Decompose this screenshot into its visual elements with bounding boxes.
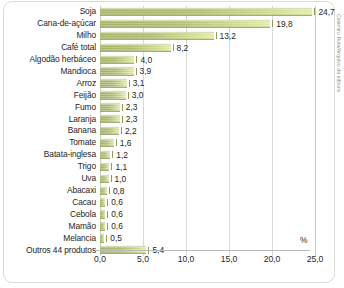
bar [100, 234, 104, 242]
category-label: Trigo [5, 162, 100, 171]
bar-row: Fumo2,3 [5, 101, 315, 113]
category-label: Abacaxi [5, 186, 100, 195]
bar-row: Banana2,2 [5, 125, 315, 137]
bar-zone: 1,2 [100, 149, 315, 161]
category-label: Algodão herbáceo [5, 55, 100, 64]
category-label: Fumo [5, 103, 100, 112]
bar-row: Soja24,7 [5, 6, 315, 18]
bar [100, 55, 134, 63]
category-label: Feijão [5, 91, 100, 100]
category-label: Melancia [5, 234, 100, 243]
bar [100, 151, 110, 159]
bar-row: Cacau0,6 [5, 196, 315, 208]
bar-row: Arroz3,1 [5, 77, 315, 89]
bar-rows: Soja24,7Cana-de-açúcar19,8Milho13,2Café … [5, 6, 315, 256]
bar-zone: 0,6 [100, 220, 315, 232]
bar-row: Melancia0,5 [5, 232, 315, 244]
bar-row: Abacaxi0,8 [5, 185, 315, 197]
x-tick-label: 10,0 [178, 254, 195, 265]
bar-value-label: 0,5 [105, 234, 122, 243]
bar-zone: 8,2 [100, 42, 315, 54]
bar-value-label: 0,6 [106, 198, 123, 207]
category-label: Cana-de-açúcar [5, 19, 100, 28]
bar-value-label: 2,3 [121, 115, 138, 124]
bar-row: Uva1,0 [5, 173, 315, 185]
bar-row: Mamão0,6 [5, 220, 315, 232]
bar-row: Algodão herbáceo4,0 [5, 54, 315, 66]
bar [100, 139, 114, 147]
bar [100, 91, 126, 99]
bar [100, 174, 109, 182]
bar-value-label: 19,8 [271, 19, 292, 28]
bar [100, 32, 214, 40]
bar-row: Cana-de-açúcar19,8 [5, 18, 315, 30]
bar [100, 103, 120, 111]
bar [100, 79, 127, 87]
bar-value-label: 3,0 [127, 91, 144, 100]
category-label: Cacau [5, 198, 100, 207]
bar-value-label: 3,9 [135, 67, 152, 76]
bar-value-label: 4,0 [135, 55, 152, 64]
category-label: Mandioca [5, 67, 100, 76]
bar [100, 8, 312, 16]
category-label: Soja [5, 7, 100, 16]
bar [100, 20, 270, 28]
bar-row: Feijão3,0 [5, 89, 315, 101]
bar-row: Milho13,2 [5, 30, 315, 42]
category-label: Mamão [5, 222, 100, 231]
bar-value-label: 1,1 [110, 162, 127, 171]
bar-zone: 1,6 [100, 137, 315, 149]
x-tick-label: 15,0 [221, 254, 238, 265]
category-label: Banana [5, 126, 100, 135]
bar-zone: 3,1 [100, 77, 315, 89]
bar-row: Mandioca3,9 [5, 66, 315, 78]
bar-value-label: 0,6 [106, 222, 123, 231]
bar-row: Batata-inglesa1,2 [5, 149, 315, 161]
category-label: Tomate [5, 138, 100, 147]
x-tick-label: 5,0 [137, 254, 149, 265]
bar-zone: 4,0 [100, 54, 315, 66]
x-tick-label: 20,0 [264, 254, 281, 265]
bar-value-label: 8,2 [172, 43, 189, 52]
bar-zone: 19,8 [100, 18, 315, 30]
category-label: Milho [5, 31, 100, 40]
bar-value-label: 3,1 [128, 79, 145, 88]
bar-zone: 0,6 [100, 208, 315, 220]
bar-zone: 0,8 [100, 185, 315, 197]
gridline [315, 6, 316, 256]
chart-body: Soja24,7Cana-de-açúcar19,8Milho13,2Café … [5, 6, 333, 256]
bar-zone: 2,3 [100, 113, 315, 125]
x-axis-tick-labels: 0,05,010,015,020,025,0 [5, 254, 333, 270]
x-axis-line [95, 250, 310, 251]
bar-value-label: 2,2 [120, 126, 137, 135]
category-label: Uva [5, 174, 100, 183]
category-label: Cebola [5, 210, 100, 219]
x-tick-label: 0,0 [94, 254, 106, 265]
bar [100, 127, 119, 135]
bar [100, 198, 105, 206]
image-credit: Casimiro Rola/Arquivo da editora [332, 14, 342, 134]
bar [100, 222, 105, 230]
chart-figure: Soja24,7Cana-de-açúcar19,8Milho13,2Café … [0, 0, 344, 288]
bar [100, 162, 109, 170]
category-label: Café total [5, 43, 100, 52]
bar [100, 43, 171, 51]
bar-zone: 2,2 [100, 125, 315, 137]
x-tick-label: 25,0 [307, 254, 324, 265]
bar-value-label: 0,8 [108, 186, 125, 195]
bar-zone: 2,3 [100, 101, 315, 113]
category-label: Batata-inglesa [5, 150, 100, 159]
bar-row: Café total8,2 [5, 42, 315, 54]
bar-row: Cebola0,6 [5, 208, 315, 220]
bar-value-label: 0,6 [106, 210, 123, 219]
bar-value-label: 1,6 [115, 138, 132, 147]
bar [100, 67, 134, 75]
bar-value-label: 13,2 [215, 31, 236, 40]
bar-zone: 0,6 [100, 196, 315, 208]
bar-zone: 3,9 [100, 66, 315, 78]
percent-unit-label: % [300, 236, 307, 245]
bar-zone: 1,1 [100, 161, 315, 173]
bar-zone: 24,7 [100, 6, 315, 18]
category-label: Arroz [5, 79, 100, 88]
bar [100, 186, 107, 194]
